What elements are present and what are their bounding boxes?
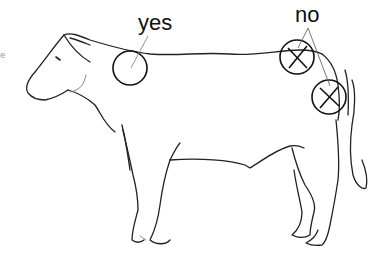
pointer-line <box>308 28 330 86</box>
no-marker-1 <box>280 40 314 74</box>
cow-outline <box>27 34 367 246</box>
cow-diagram <box>0 0 387 261</box>
yes-label: yes <box>138 12 172 34</box>
yes-marker <box>113 36 148 85</box>
pointer-line <box>298 28 308 48</box>
no-marker-2 <box>312 80 346 114</box>
circle-icon <box>113 51 147 85</box>
no-label: no <box>295 4 319 26</box>
